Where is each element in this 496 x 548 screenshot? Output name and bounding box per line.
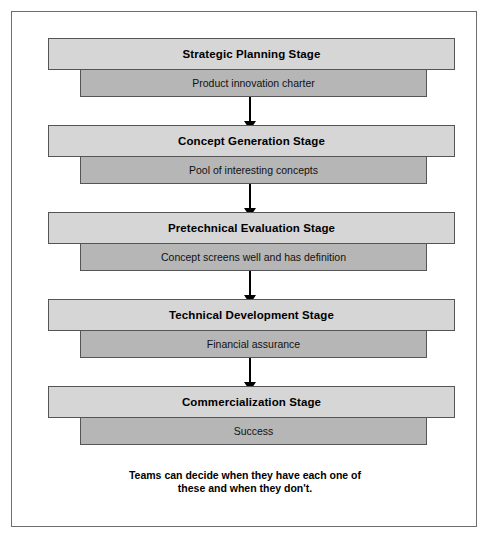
stage-title-bar-4: Technical Development Stage: [48, 299, 455, 331]
stage-outcome-bar-2: Pool of interesting concepts: [80, 156, 427, 184]
stage-outcome-bar-1: Product innovation charter: [80, 69, 427, 97]
flow-arrow-shaft-1: [249, 97, 251, 124]
stage-title-label-1: Strategic Planning Stage: [183, 48, 321, 60]
flow-arrow-shaft-2: [249, 184, 251, 211]
stage-outcome-label-1: Product innovation charter: [192, 77, 315, 89]
flow-arrow-shaft-4: [249, 358, 251, 385]
stage-title-bar-3: Pretechnical Evaluation Stage: [48, 212, 455, 244]
diagram-caption: Teams can decide when they have each one…: [12, 469, 478, 495]
stage-title-bar-2: Concept Generation Stage: [48, 125, 455, 157]
stage-title-bar-5: Commercialization Stage: [48, 386, 455, 418]
caption-line-2: these and when they don't.: [12, 482, 478, 495]
stage-outcome-bar-5: Success: [80, 417, 427, 445]
stage-title-label-3: Pretechnical Evaluation Stage: [168, 222, 335, 234]
stage-outcome-bar-3: Concept screens well and has definition: [80, 243, 427, 271]
stage-flow-container: Strategic Planning Stage Product innovat…: [12, 12, 478, 528]
caption-line-1: Teams can decide when they have each one…: [12, 469, 478, 482]
stage-outcome-label-5: Success: [234, 425, 274, 437]
stage-outcome-bar-4: Financial assurance: [80, 330, 427, 358]
stage-title-label-5: Commercialization Stage: [182, 396, 321, 408]
stage-outcome-label-4: Financial assurance: [207, 338, 300, 350]
diagram-frame: Strategic Planning Stage Product innovat…: [11, 11, 477, 527]
stage-title-bar-1: Strategic Planning Stage: [48, 38, 455, 70]
stage-title-label-4: Technical Development Stage: [169, 309, 334, 321]
stage-outcome-label-2: Pool of interesting concepts: [189, 164, 318, 176]
flow-arrow-shaft-3: [249, 271, 251, 298]
stage-title-label-2: Concept Generation Stage: [178, 135, 325, 147]
stage-outcome-label-3: Concept screens well and has definition: [161, 251, 346, 263]
